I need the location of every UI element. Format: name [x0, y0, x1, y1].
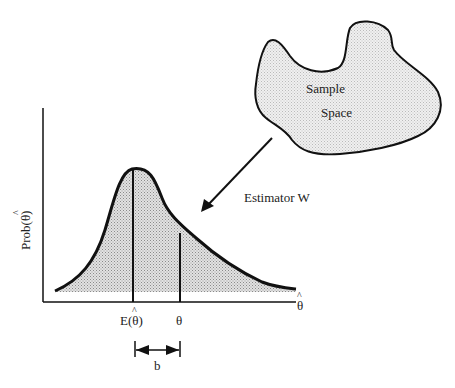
bias-bracket	[135, 341, 180, 357]
sample-space-region	[255, 21, 440, 154]
x-axis-hat: ^	[297, 290, 302, 301]
estimator-label: Estimator W	[244, 190, 311, 205]
theta-label: θ	[176, 313, 182, 328]
y-axis-label-hat: ^	[11, 210, 22, 215]
svg-text:Prob(θ): Prob(θ)	[18, 211, 33, 250]
sample-space-label-line1: Sample	[306, 81, 345, 96]
y-axis-label: Prob(θ) ^	[11, 210, 33, 250]
distribution-area	[55, 169, 296, 292]
estimator-bias-diagram: Sample Space Estimator W Prob(θ) ^ θ ^ E…	[0, 0, 455, 388]
bias-label: b	[154, 358, 161, 373]
sample-space-label-line2: Space	[321, 105, 352, 120]
expected-value-hat: ^	[132, 305, 137, 316]
